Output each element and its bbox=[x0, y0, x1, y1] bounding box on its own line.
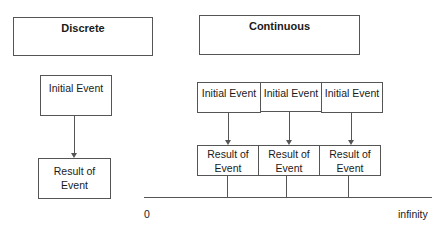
discrete-header-box: Discrete bbox=[13, 17, 153, 56]
continuous-result-box-2: Result of Event bbox=[258, 145, 320, 176]
continuous-initial-event-box-3: Initial Event bbox=[321, 82, 383, 113]
result-line1: Result of bbox=[198, 147, 258, 161]
discrete-result-box: Result of Event bbox=[38, 158, 111, 199]
continuous-arrow-line-3 bbox=[351, 113, 352, 141]
result-line1: Result of bbox=[320, 147, 380, 161]
continuous-arrow-line-2 bbox=[289, 112, 290, 141]
result-line2: Event bbox=[320, 161, 380, 175]
discrete-initial-event-box: Initial Event bbox=[40, 75, 112, 116]
continuous-initial-event-box-2: Initial Event bbox=[260, 82, 322, 112]
continuous-arrow-line-1 bbox=[228, 113, 229, 141]
discrete-initial-event-label: Initial Event bbox=[49, 82, 103, 94]
result-line1: Result of bbox=[259, 147, 319, 161]
continuous-result-box-3: Result of Event bbox=[319, 145, 381, 176]
discrete-result-line1: Result of bbox=[39, 164, 110, 178]
timeline-start-label: 0 bbox=[144, 208, 150, 220]
timeline-end-label: infinity bbox=[398, 208, 428, 220]
discrete-result-line2: Event bbox=[39, 178, 110, 192]
continuous-initial-event-label: Initial Event bbox=[325, 87, 379, 99]
continuous-initial-event-label: Initial Event bbox=[264, 87, 318, 99]
result-line2: Event bbox=[259, 161, 319, 175]
continuous-title: Continuous bbox=[249, 20, 310, 32]
continuous-result-box-1: Result of Event bbox=[197, 145, 259, 176]
discrete-title: Discrete bbox=[61, 22, 104, 34]
timeline-connector-1 bbox=[227, 176, 228, 197]
continuous-header-box: Continuous bbox=[199, 15, 360, 55]
continuous-initial-event-label: Initial Event bbox=[202, 87, 256, 99]
discrete-arrow-line bbox=[74, 116, 75, 154]
timeline-connector-2 bbox=[286, 176, 287, 197]
continuous-initial-event-box-1: Initial Event bbox=[197, 82, 261, 113]
timeline-axis bbox=[144, 197, 432, 198]
timeline-connector-3 bbox=[348, 176, 349, 197]
result-line2: Event bbox=[198, 161, 258, 175]
